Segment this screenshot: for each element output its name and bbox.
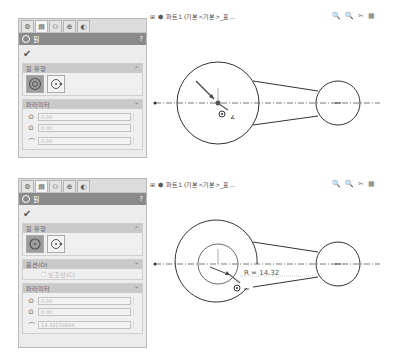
document-title: 파트1 (기본<기본>_표... — [166, 12, 235, 21]
center-y-input[interactable]: 0.00 — [38, 124, 131, 132]
center-y-icon: ⊙ — [26, 124, 36, 132]
perimeter-circle-button[interactable] — [47, 75, 65, 93]
circle-icon — [22, 195, 30, 203]
circle-type-group: 원 유형⌃ — [22, 63, 143, 96]
collapse-button[interactable]: ⌃ — [134, 65, 139, 72]
document-title-bottom[interactable]: ⊞ ⬢ 파트1 (기본<기본>_표... — [150, 180, 235, 189]
group-title: 원 유형 — [26, 224, 46, 233]
spinner[interactable] — [133, 321, 139, 329]
part-icon: ⬢ — [158, 13, 163, 20]
zoom-area-icon[interactable]: 🔍 — [345, 12, 354, 20]
center-x-icon: ⊙ — [26, 297, 36, 305]
section-view-icon[interactable]: ✂ — [358, 180, 364, 188]
zoom-to-fit-icon[interactable]: 🔍 — [332, 180, 341, 188]
part-icon: ⬢ — [158, 181, 163, 188]
circle-type-group: 원 유형⌃ — [22, 223, 143, 256]
parameters-group: 파라미터⌃ ⊙0.00 ⊙0.00 ⌒0.00 — [22, 99, 143, 150]
dimxpert-tab[interactable]: ⊕ — [63, 180, 76, 192]
spinner[interactable] — [133, 113, 139, 121]
property-manager-panel-bottom: ⚙ ▤ ⚇ ⊕ ◐ 원 ? ✔ 원 유형⌃ 옵션(O)⌃ 보조선(C) 파라미터… — [18, 178, 147, 348]
ok-button[interactable]: ✔ — [23, 208, 31, 219]
radius-input[interactable]: 0.00 — [38, 137, 131, 145]
feature-manager-tab[interactable]: ⚙ — [21, 20, 34, 32]
help-button[interactable]: ? — [139, 195, 143, 203]
zoom-area-icon[interactable]: 🔍 — [345, 180, 354, 188]
perimeter-circle-icon — [49, 237, 63, 251]
svg-text:∡: ∡ — [230, 113, 235, 120]
center-y-input[interactable]: 0.00 — [38, 308, 131, 316]
group-title: 옵션(O) — [26, 260, 47, 269]
group-title: 파라미터 — [26, 284, 50, 293]
center-circle-icon — [28, 77, 42, 91]
group-title: 파라미터 — [26, 100, 50, 109]
center-x-input[interactable]: 0.00 — [38, 297, 131, 305]
spinner[interactable] — [133, 308, 139, 316]
property-manager-tab[interactable]: ▤ — [35, 180, 48, 192]
options-group: 옵션(O)⌃ 보조선(C) — [22, 259, 143, 280]
manager-tabs: ⚙ ▤ ⚇ ⊕ ◐ — [19, 179, 146, 193]
property-title-bar: 원 ? — [19, 193, 146, 205]
property-manager-tab[interactable]: ▤ — [35, 20, 48, 32]
circle-icon — [22, 35, 30, 43]
property-title-bar: 원 ? — [19, 33, 146, 45]
radius-input[interactable]: 14.32239494 — [38, 321, 131, 329]
property-manager-panel-top: ⚙ ▤ ⚇ ⊕ ◐ 원 ? ✔ 원 유형⌃ 파라미터⌃ ⊙0.00 ⊙0.00 … — [18, 18, 147, 158]
spinner[interactable] — [133, 137, 139, 145]
view-orientation-icon[interactable]: ▦ — [368, 12, 375, 20]
sketch-canvas-top[interactable]: ∡ — [150, 40, 399, 170]
center-x-input[interactable]: 0.00 — [38, 113, 131, 121]
perimeter-circle-icon — [49, 77, 63, 91]
dimxpert-tab[interactable]: ⊕ — [63, 20, 76, 32]
property-title: 원 — [33, 34, 39, 44]
center-circle-button[interactable] — [26, 235, 44, 253]
view-orientation-icon[interactable]: ▦ — [368, 180, 375, 188]
view-toolbar-bottom: 🔍 🔍 ✂ ▦ — [332, 180, 375, 188]
manager-tabs: ⚙ ▤ ⚇ ⊕ ◐ — [19, 19, 146, 33]
radius-dimension: R = 14.32 — [244, 269, 279, 277]
parameters-group: 파라미터⌃ ⊙0.00 ⊙0.00 ⌒14.32239494 — [22, 283, 143, 334]
perimeter-circle-button[interactable] — [47, 235, 65, 253]
section-view-icon[interactable]: ✂ — [358, 12, 364, 20]
center-circle-icon — [28, 237, 42, 251]
ok-button[interactable]: ✔ — [23, 48, 31, 59]
configuration-manager-tab[interactable]: ⚇ — [49, 180, 62, 192]
property-title: 원 — [33, 194, 39, 204]
collapse-button[interactable]: ⌃ — [134, 101, 139, 108]
display-manager-tab[interactable]: ◐ — [77, 180, 90, 192]
center-circle-button[interactable] — [26, 75, 44, 93]
center-x-icon: ⊙ — [26, 113, 36, 121]
spinner[interactable] — [133, 297, 139, 305]
sketch-canvas-bottom[interactable]: R = 14.32 — [150, 200, 399, 330]
display-manager-tab[interactable]: ◐ — [77, 20, 90, 32]
collapse-button[interactable]: ⌃ — [134, 261, 139, 268]
help-button[interactable]: ? — [139, 35, 143, 43]
document-title: 파트1 (기본<기본>_표... — [166, 180, 235, 189]
radius-icon: ⌒ — [26, 136, 36, 146]
expand-icon[interactable]: ⊞ — [150, 181, 155, 188]
collapse-button[interactable]: ⌃ — [134, 285, 139, 292]
construction-checkbox[interactable] — [41, 272, 46, 277]
document-title-top[interactable]: ⊞ ⬢ 파트1 (기본<기본>_표... — [150, 12, 235, 21]
radius-icon: ⌒ — [26, 320, 36, 330]
collapse-button[interactable]: ⌃ — [134, 225, 139, 232]
view-toolbar-top: 🔍 🔍 ✂ ▦ — [332, 12, 375, 20]
feature-manager-tab[interactable]: ⚙ — [21, 180, 34, 192]
zoom-to-fit-icon[interactable]: 🔍 — [332, 12, 341, 20]
spinner[interactable] — [133, 124, 139, 132]
group-title: 원 유형 — [26, 64, 46, 73]
configuration-manager-tab[interactable]: ⚇ — [49, 20, 62, 32]
construction-label: 보조선(C) — [48, 270, 75, 279]
center-y-icon: ⊙ — [26, 308, 36, 316]
expand-icon[interactable]: ⊞ — [150, 13, 155, 20]
